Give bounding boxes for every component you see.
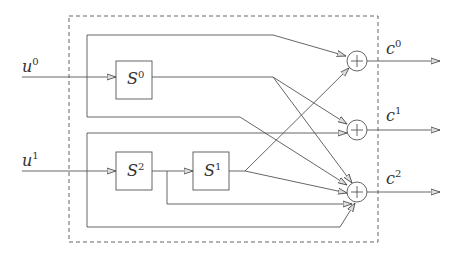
block-s0: S0 — [116, 61, 152, 99]
block-s2: S2 — [116, 152, 152, 190]
adder-0 — [347, 51, 367, 71]
c2-label: c2 — [386, 168, 401, 188]
encoder-boundary — [69, 16, 378, 242]
s0-to-add2-edge — [273, 77, 352, 183]
block-s1: S1 — [193, 152, 229, 190]
encoder-diagram: S0 S2 S1 u0 u1 c0 c1 c2 — [0, 0, 465, 253]
s1-to-add2-edge — [245, 171, 347, 193]
c1-label: c1 — [386, 105, 401, 125]
adder-1 — [347, 120, 367, 140]
u1-label: u1 — [22, 150, 39, 170]
u0-label: u0 — [22, 56, 39, 76]
adder-2 — [347, 182, 367, 202]
c0-label: c0 — [386, 38, 401, 58]
